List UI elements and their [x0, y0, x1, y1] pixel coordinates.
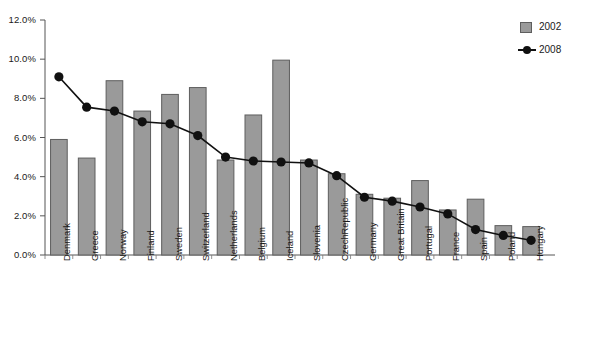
- data-point-slovenia: [304, 158, 313, 167]
- data-point-spain: [471, 225, 480, 234]
- legend-label-2008: 2008: [539, 44, 561, 56]
- data-point-germany: [360, 193, 369, 202]
- x-axis-label-slovenia: Slovenia: [312, 225, 322, 261]
- x-axis-label-belgium: Belgium: [257, 227, 267, 261]
- x-axis-label-spain: Spain: [479, 237, 489, 261]
- data-point-belgium: [249, 156, 258, 165]
- x-axis-label-greece: Greece: [90, 230, 100, 261]
- x-axis-label-netherlands: Netherlands: [229, 210, 239, 261]
- x-axis-label-switzerland: Switzerland: [201, 212, 211, 261]
- line-series-2008: [54, 72, 535, 245]
- x-axis-label-germany: Germany: [368, 222, 378, 261]
- legend-label-2002: 2002: [539, 21, 561, 33]
- data-point-denmark: [54, 72, 63, 81]
- data-point-france: [443, 209, 452, 218]
- trend-line-2008: [59, 77, 531, 241]
- data-point-greece: [82, 103, 91, 112]
- chart-container: 12.0%10.0%8.0%6.0%4.0%2.0%0.0% DenmarkGr…: [0, 0, 596, 338]
- x-axis-label-norway: Norway: [118, 229, 128, 261]
- legend-marker-2008: [523, 46, 531, 54]
- data-point-czechrepublic: [332, 171, 341, 180]
- x-axis-label-france: France: [451, 232, 461, 261]
- x-axis-label-czechrepublic: CzechRepublic: [340, 198, 350, 261]
- x-axis-label-denmark: Denmark: [62, 223, 72, 261]
- data-point-great-britain: [388, 197, 397, 206]
- data-point-sweden: [165, 119, 174, 128]
- x-axis-label-portugal: Portugal: [424, 226, 434, 261]
- x-axis-label-iceland: Iceland: [285, 231, 295, 261]
- x-axis-label-finland: Finland: [146, 230, 156, 261]
- x-axis-label-sweden: Sweden: [174, 227, 184, 261]
- x-axis-label-poland: Poland: [507, 232, 517, 261]
- data-point-switzerland: [193, 131, 202, 140]
- data-point-norway: [110, 106, 119, 115]
- chart-plot-area: [0, 0, 596, 338]
- data-point-portugal: [415, 202, 424, 211]
- data-point-finland: [138, 117, 147, 126]
- bar-series-2002: [51, 60, 540, 255]
- legend-swatch-2002: [520, 22, 532, 33]
- data-point-netherlands: [221, 152, 230, 161]
- x-axis-label-hungary: Hungary: [535, 226, 545, 262]
- data-point-iceland: [277, 157, 286, 166]
- x-axis-label-great-britain: Great Britain: [396, 208, 406, 261]
